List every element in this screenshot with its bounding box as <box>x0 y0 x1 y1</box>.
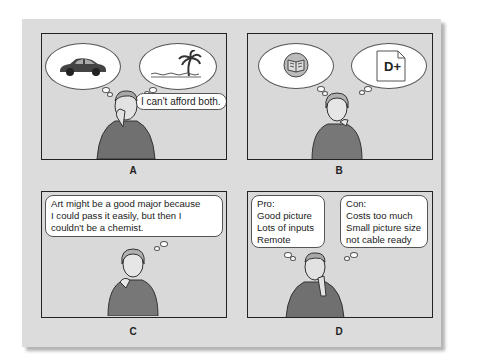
thought-line: couldn't be a chemist. <box>51 222 217 234</box>
woman-figure-icon <box>310 90 364 160</box>
con-title: Con: <box>346 198 422 210</box>
thought-bubble-book <box>258 43 334 89</box>
pro-item: Lots of inputs <box>257 222 319 234</box>
thought-line: Art might be a good major because <box>51 198 217 210</box>
thought-dot <box>350 252 358 258</box>
panel-label-b: B <box>319 165 359 176</box>
man-figure-icon <box>95 87 157 159</box>
thought-bubble-grade: D+ <box>351 43 427 89</box>
book-icon <box>283 52 309 78</box>
grade-text: D+ <box>384 59 401 74</box>
car-icon <box>58 56 108 78</box>
pro-item: Good picture <box>257 210 319 222</box>
thought-bubble-car <box>45 43 121 90</box>
thought-dot <box>364 86 372 92</box>
beach-palm-icon <box>151 50 203 80</box>
panel-c: Art might be a good major because I coul… <box>41 191 227 318</box>
con-bubble: Con: Costs too much Small picture size n… <box>340 195 428 248</box>
thought-dot <box>160 241 168 247</box>
thought-bubble-c: Art might be a good major because I coul… <box>45 195 223 237</box>
panel-label-c: C <box>113 326 153 337</box>
thought-bubble-beach <box>139 43 217 90</box>
pro-bubble: Pro: Good picture Lots of inputs Remote <box>251 195 325 248</box>
panel-a: I can't afford both. <box>41 33 227 160</box>
comic-sheet: I can't afford both. A D+ <box>22 19 441 347</box>
panel-b: D+ <box>247 33 433 160</box>
con-item: Costs too much <box>346 210 422 222</box>
pro-title: Pro: <box>257 198 319 210</box>
panel-label-a: A <box>113 165 153 176</box>
con-item: not cable ready <box>346 234 422 246</box>
con-item: Small picture size <box>346 222 422 234</box>
man-figure-icon <box>284 250 346 318</box>
pro-item: Remote <box>257 234 319 246</box>
woman-figure-icon <box>106 246 160 316</box>
thought-line: I could pass it easily, but then I <box>51 210 217 222</box>
panel-d: Pro: Good picture Lots of inputs Remote … <box>247 191 433 318</box>
panel-label-d: D <box>319 326 359 337</box>
